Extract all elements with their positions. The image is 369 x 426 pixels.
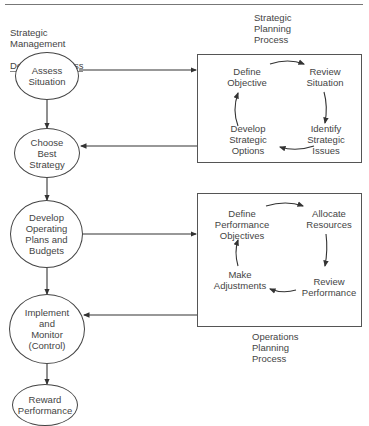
- step-define-objective: Define Objective: [224, 66, 270, 88]
- node-label: Choose Best Strategy: [29, 137, 64, 170]
- node-label: Develop Operating Plans and Budgets: [25, 212, 67, 256]
- node-label: Reward Performance: [18, 394, 72, 416]
- node-develop-operating-plans: Develop Operating Plans and Budgets: [10, 200, 83, 268]
- step-review-situation: Review Situation: [300, 66, 350, 88]
- step-make-adjustments: Make Adjustments: [210, 269, 270, 291]
- node-choose-best-strategy: Choose Best Strategy: [14, 128, 80, 178]
- step-define-performance-objectives: Define Performance Objectives: [206, 208, 278, 241]
- node-label: Implement and Monitor (Control): [25, 307, 69, 351]
- node-assess-situation: Assess Situation: [15, 52, 79, 100]
- node-reward-performance: Reward Performance: [12, 384, 78, 426]
- step-develop-strategic-options: Develop Strategic Options: [224, 123, 272, 156]
- step-identify-strategic-issues: Identify Strategic Issues: [302, 123, 350, 156]
- step-allocate-resources: Allocate Resources: [298, 208, 360, 230]
- node-label: Assess Situation: [29, 65, 66, 87]
- step-review-performance: Review Performance: [294, 276, 364, 298]
- node-implement-and-monitor: Implement and Monitor (Control): [9, 294, 85, 364]
